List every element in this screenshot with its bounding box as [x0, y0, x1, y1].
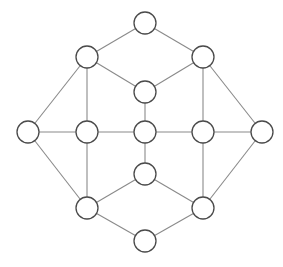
edge-right-lower-right	[203, 132, 262, 208]
node-top	[134, 12, 156, 34]
node-inner-top	[134, 81, 156, 103]
node-right	[251, 121, 273, 143]
node-middle-right	[192, 121, 214, 143]
graph-diagram	[0, 0, 283, 267]
node-lower-left	[76, 197, 98, 219]
edge-upper-left-left	[28, 57, 87, 132]
node-inner-bottom	[134, 163, 156, 185]
node-left	[17, 121, 39, 143]
node-center	[134, 121, 156, 143]
edge-left-lower-left	[28, 132, 87, 208]
edge-upper-right-right	[203, 57, 262, 132]
node-upper-left	[76, 46, 98, 68]
node-middle-left	[76, 121, 98, 143]
node-upper-right	[192, 46, 214, 68]
node-bottom	[134, 230, 156, 252]
node-lower-right	[192, 197, 214, 219]
